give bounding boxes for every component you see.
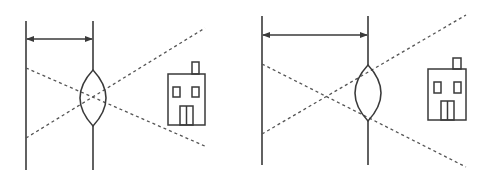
house-chimney <box>453 58 461 69</box>
house-window-1 <box>173 87 180 97</box>
light-ray-2 <box>26 28 205 138</box>
lens-diagram <box>0 0 478 177</box>
house-icon <box>428 58 466 120</box>
panel-left <box>26 21 207 170</box>
house-icon <box>168 62 205 125</box>
convex-lens <box>80 70 106 126</box>
house-window-2 <box>454 82 461 93</box>
house-chimney <box>192 62 199 74</box>
house-window-2 <box>192 87 199 97</box>
panel-right <box>262 15 466 167</box>
house-window-1 <box>434 82 441 93</box>
